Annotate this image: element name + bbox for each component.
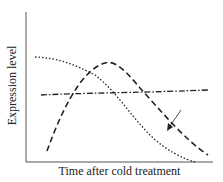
plot-area xyxy=(0,0,223,182)
y-axis-label: Expression level xyxy=(5,36,20,136)
dashdot-series xyxy=(41,90,208,95)
x-axis-label: Time after cold treatment xyxy=(26,164,213,179)
chart: Expression level Time after cold treatme… xyxy=(0,0,223,182)
arrow-annotation xyxy=(170,110,181,126)
dashed-series xyxy=(47,62,208,155)
dotted-series xyxy=(35,57,196,162)
